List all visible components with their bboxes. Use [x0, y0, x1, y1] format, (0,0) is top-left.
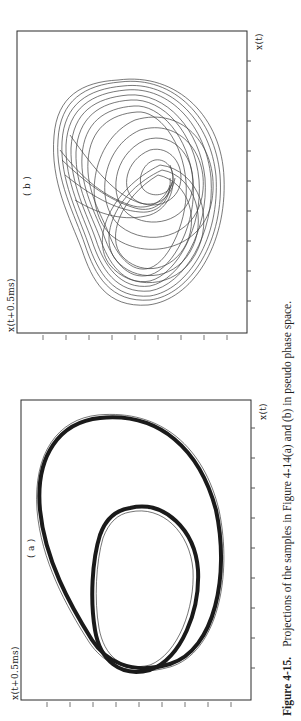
- panel-b-y-ticks: [43, 335, 227, 340]
- figure-caption-text: Projections of the samples in Figure 4-1…: [281, 301, 293, 647]
- panel-a-frame: [21, 400, 251, 700]
- panel-b-plot: [0, 0, 280, 360]
- panel-b-x-axis-label: x(t): [254, 33, 264, 50]
- panel-b-x-ticks: [247, 61, 251, 301]
- panel-a-y-axis-label: x(t+0.5ms): [10, 646, 20, 700]
- panel-b: x(t+0.5ms) x(t) ( b ): [0, 0, 280, 360]
- panel-b-y-axis-label: x(t+0.5ms): [6, 278, 16, 332]
- panel-a-limit-cycle: [37, 414, 224, 672]
- panel-a-y-ticks: [47, 702, 231, 707]
- panel-b-attractor: [53, 79, 224, 305]
- figure-number: Figure 4-15.: [281, 657, 293, 716]
- panel-b-frame: [17, 31, 247, 333]
- panel-a-label: ( a ): [26, 538, 36, 558]
- figure-caption: Figure 4-15.Projections of the samples i…: [281, 301, 293, 716]
- panel-a-x-ticks: [251, 428, 255, 668]
- panel-a-x-axis-label: x(t): [258, 403, 268, 420]
- panel-b-label: ( b ): [22, 176, 32, 196]
- panel-a: x(t+0.5ms) x(t) ( a ): [0, 360, 280, 721]
- panel-a-plot: [0, 360, 280, 721]
